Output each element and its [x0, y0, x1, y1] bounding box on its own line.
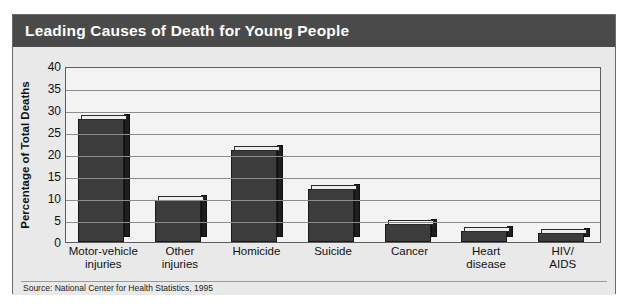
bar-top	[464, 227, 510, 232]
x-axis-tick-line: Cancer	[371, 245, 448, 258]
y-axis-tick-10: 10	[35, 193, 61, 205]
x-axis-tick-suicide: Suicide	[295, 245, 372, 258]
x-axis-tick-line: Other	[142, 245, 219, 258]
gridline-25	[66, 134, 600, 135]
bar-top	[81, 115, 127, 120]
x-axis-tick-heart-disease: Heartdisease	[448, 245, 525, 270]
y-axis-label: Percentage of Total Deaths	[15, 67, 35, 242]
plot-area	[65, 67, 601, 243]
y-axis-tick-labels: 4035302520151050	[35, 67, 61, 243]
bar-face	[461, 231, 507, 242]
bar-face	[385, 224, 431, 242]
y-axis-tick-15: 15	[35, 171, 61, 183]
bars-layer	[66, 68, 600, 242]
bar-face	[538, 233, 584, 242]
x-axis-tick-line: HIV/	[524, 245, 601, 258]
source-note: Source: National Center for Health Stati…	[23, 283, 213, 293]
bar-top	[541, 229, 587, 234]
bar-side	[124, 114, 130, 237]
x-axis-tick-line: disease	[448, 258, 525, 271]
x-axis-tick-line: Motor-vehicle	[65, 245, 142, 258]
bar-face	[308, 189, 354, 242]
bar-other-injuries[interactable]	[155, 195, 207, 242]
x-axis-tick-line: Homicide	[218, 245, 295, 258]
bar-side	[201, 195, 207, 237]
gridline-10	[66, 200, 600, 201]
bar-homicide[interactable]	[231, 145, 283, 242]
x-axis-tick-hiv-aids: HIV/AIDS	[524, 245, 601, 270]
chart-title-bar: Leading Causes of Death for Young People	[13, 15, 615, 47]
gridline-35	[66, 90, 600, 91]
x-axis-tick-line: AIDS	[524, 258, 601, 271]
gridline-5	[66, 222, 600, 223]
bar-face	[78, 119, 124, 242]
bar-top	[234, 146, 280, 151]
x-axis-tick-line: Suicide	[295, 245, 372, 258]
chart-figure: Leading Causes of Death for Young People…	[12, 14, 616, 294]
gridline-30	[66, 112, 600, 113]
x-axis-tick-line: Heart	[448, 245, 525, 258]
page-title: Leading Causes of Death for Young People	[13, 22, 349, 40]
bar-face	[231, 150, 277, 242]
x-axis-tick-labels: Motor-vehicleinjuriesOtherinjuriesHomici…	[65, 245, 601, 279]
bar-hiv-aids[interactable]	[538, 228, 590, 242]
x-axis-tick-homicide: Homicide	[218, 245, 295, 258]
bar-suicide[interactable]	[308, 184, 360, 242]
x-axis-tick-motor-vehicle-injuries: Motor-vehicleinjuries	[65, 245, 142, 270]
bar-heart-disease[interactable]	[461, 226, 513, 242]
y-axis-tick-5: 5	[35, 215, 61, 227]
bar-side	[354, 184, 360, 237]
y-axis-tick-35: 35	[35, 83, 61, 95]
x-axis-tick-line: injuries	[65, 258, 142, 271]
y-axis-tick-40: 40	[35, 61, 61, 73]
chart-body: Percentage of Total Deaths 4035302520151…	[13, 47, 615, 295]
x-axis-tick-line: injuries	[142, 258, 219, 271]
y-axis-tick-30: 30	[35, 105, 61, 117]
y-axis-tick-20: 20	[35, 149, 61, 161]
y-axis-label-text: Percentage of Total Deaths	[19, 81, 31, 228]
x-axis-tick-other-injuries: Otherinjuries	[142, 245, 219, 270]
gridline-15	[66, 178, 600, 179]
x-axis-tick-cancer: Cancer	[371, 245, 448, 258]
bar-top	[311, 185, 357, 190]
y-axis-tick-0: 0	[35, 237, 61, 249]
y-axis-tick-25: 25	[35, 127, 61, 139]
source-divider	[21, 281, 607, 282]
gridline-20	[66, 156, 600, 157]
bar-side	[277, 145, 283, 237]
